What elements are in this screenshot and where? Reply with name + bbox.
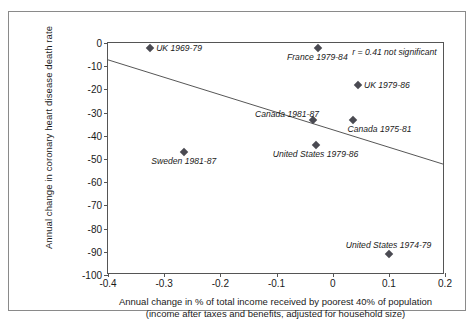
x-tick-mark xyxy=(164,273,165,277)
plot-area: 0-10-20-30-40-50-60-70-80-90-100 -0.4-0.… xyxy=(107,42,444,274)
x-tick-label: 0.1 xyxy=(382,278,396,289)
y-tick-mark xyxy=(104,113,108,114)
correlation-annotation: r = 0.41 not significant xyxy=(352,47,436,57)
y-tick-mark xyxy=(104,159,108,160)
x-tick-mark xyxy=(277,273,278,277)
y-tick-mark xyxy=(104,229,108,230)
y-tick-mark xyxy=(104,43,108,44)
y-tick-mark xyxy=(104,136,108,137)
y-tick-mark xyxy=(104,205,108,206)
x-tick-label: 0.2 xyxy=(438,278,452,289)
x-tick-label: -0.1 xyxy=(268,278,285,289)
y-tick-mark xyxy=(104,89,108,90)
x-tick-label: 0 xyxy=(330,278,336,289)
x-tick-label: -0.4 xyxy=(99,278,116,289)
plot-inner: 0-10-20-30-40-50-60-70-80-90-100 -0.4-0.… xyxy=(108,43,443,273)
x-tick-label: -0.2 xyxy=(212,278,229,289)
x-tick-mark xyxy=(445,273,446,277)
data-point-label: Canada 1975-81 xyxy=(347,124,411,134)
x-tick-mark xyxy=(333,273,334,277)
x-tick-label: -0.3 xyxy=(156,278,173,289)
figure-panel: Annual change in coronary heart disease … xyxy=(8,11,466,311)
y-tick-mark xyxy=(104,66,108,67)
x-tick-mark xyxy=(220,273,221,277)
data-point-label: United States 1979-86 xyxy=(273,149,359,159)
x-axis-title-line1: Annual change in % of total income recei… xyxy=(107,296,444,308)
data-point-label: Canada 1981-87 xyxy=(255,109,319,119)
y-tick-mark xyxy=(104,182,108,183)
data-point-label: UK 1969-79 xyxy=(156,43,202,53)
y-tick-mark xyxy=(104,252,108,253)
data-point-label: UK 1979-86 xyxy=(364,80,410,90)
x-axis-title: Annual change in % of total income recei… xyxy=(107,296,444,320)
x-tick-mark xyxy=(389,273,390,277)
data-point-label: Sweden 1981-87 xyxy=(151,156,216,166)
x-tick-mark xyxy=(108,273,109,277)
data-point-label: France 1979-84 xyxy=(287,52,348,62)
data-point-label: United States 1974-79 xyxy=(346,240,432,250)
x-axis-title-line2: (income after taxes and benefits, adjust… xyxy=(107,308,444,320)
y-axis-title: Annual change in coronary heart disease … xyxy=(43,13,54,263)
